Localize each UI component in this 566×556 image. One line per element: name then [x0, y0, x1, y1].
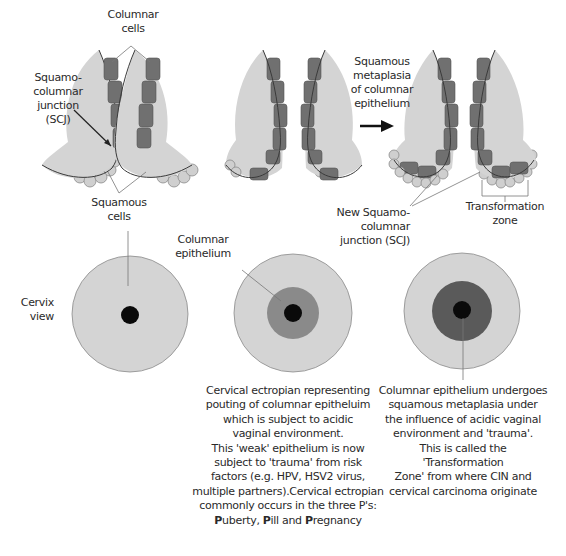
caption-line: multiple partners).Cervical ectropian: [188, 485, 388, 499]
label-line: cells: [88, 210, 150, 224]
caption-line: commonly occurs in the three P's:: [188, 499, 388, 513]
ectropion-caption: Cervical ectropian representing pouting …: [188, 384, 388, 528]
arrow-right-icon: [360, 120, 394, 132]
three-ps-line: Puberty, Pill and Pregnancy: [188, 514, 388, 528]
cervix-view-transformation: [404, 253, 520, 380]
caption-text: ill and: [271, 514, 305, 527]
columnar-cells-label: Columnar cells: [103, 8, 163, 36]
caption-line: environment and 'trauma'.: [378, 427, 548, 441]
label-line: epithelium: [170, 247, 236, 261]
bold-p: P: [305, 514, 313, 527]
caption-line: Zone' from where CIN and: [378, 470, 548, 484]
caption-line: This 'weak' epithelium is now: [188, 442, 388, 456]
caption-text: uberty,: [222, 514, 263, 527]
caption-line: subject to 'trauma' from risk: [188, 456, 388, 470]
caption-text: regnancy: [313, 514, 362, 527]
label-line: Squamous: [88, 196, 150, 210]
caption-line: Cervical ectropian representing: [188, 384, 388, 398]
label-line: epithelium: [344, 97, 420, 111]
label-line: junction: [28, 99, 88, 113]
squamous-cells-label: Squamous cells: [88, 196, 150, 224]
label-line: Squamous: [344, 55, 420, 69]
caption-line: which is subject to acidic: [188, 413, 388, 427]
bold-p: P: [214, 514, 222, 527]
label-line: Columnar: [103, 8, 163, 22]
transformation-zone-label: Transformation zone: [463, 200, 547, 228]
label-line: cells: [103, 22, 163, 36]
label-line: Columnar: [170, 233, 236, 247]
label-line: Cervix: [10, 296, 54, 310]
cervix-view-label: Cervix view: [10, 296, 54, 324]
caption-line: cervical carcinoma originate: [378, 485, 548, 499]
label-line: Squamo-: [28, 71, 88, 85]
caption-line: vaginal environment.: [188, 427, 388, 441]
label-line: zone: [463, 214, 547, 228]
caption-line: This is called the 'Transformation: [378, 442, 548, 471]
label-line: Transformation: [463, 200, 547, 214]
label-line: metaplasia: [344, 69, 420, 83]
cervix-section-ectropion: [225, 50, 362, 180]
label-line: of columnar: [344, 83, 420, 97]
caption-line: squamous metaplasia under: [378, 398, 548, 412]
caption-line: pouting of columnar epitheluim: [188, 398, 388, 412]
bold-p: P: [263, 514, 271, 527]
scj-label: Squamo- columnar junction (SCJ): [28, 71, 88, 127]
label-line: columnar: [28, 85, 88, 99]
transformation-caption: Columnar epithelium undergoes squamous m…: [378, 384, 548, 499]
label-line: New Squamo-columnar: [300, 206, 410, 234]
label-line: junction (SCJ): [300, 234, 410, 248]
label-line: view: [10, 310, 54, 324]
label-line: (SCJ): [28, 113, 88, 127]
new-scj-label: New Squamo-columnar junction (SCJ): [300, 206, 410, 248]
caption-line: Columnar epithelium undergoes: [378, 384, 548, 398]
caption-line: factors (e.g. HPV, HSV2 virus,: [188, 470, 388, 484]
cervix-view-ectropion: [234, 254, 352, 372]
columnar-epithelium-label: Columnar epithelium: [170, 233, 236, 261]
metaplasia-label: Squamous metaplasia of columnar epitheli…: [344, 55, 420, 111]
caption-line: the influence of acidic vaginal: [378, 413, 548, 427]
